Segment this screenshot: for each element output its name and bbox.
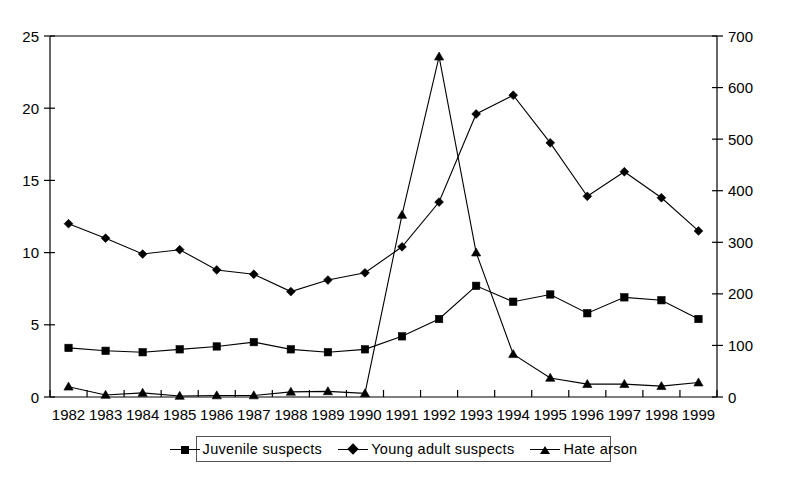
data-point-diamond (620, 167, 629, 176)
data-point-diamond (64, 219, 73, 228)
y-axis-left-tick-label: 25 (22, 28, 39, 45)
data-point-square (695, 315, 702, 322)
data-point-triangle (546, 373, 555, 381)
data-point-diamond (286, 287, 295, 296)
x-axis-tick-label: 1993 (459, 406, 492, 423)
y-axis-left-tick-label: 10 (22, 244, 39, 261)
data-point-diamond (138, 250, 147, 259)
data-point-triangle (694, 378, 703, 386)
legend-label-juvenile-suspects: Juvenile suspects (203, 441, 323, 457)
y-axis-right-tick-label: 300 (728, 234, 753, 251)
data-point-square (287, 346, 294, 353)
data-point-triangle (138, 388, 147, 396)
x-axis-tick-label: 1992 (422, 406, 455, 423)
y-axis-right-tick-label: 200 (728, 285, 753, 302)
data-point-diamond (249, 270, 258, 279)
y-axis-left-tick-label: 5 (31, 316, 39, 333)
legend-square-marker-icon (170, 443, 200, 455)
legend-item-juvenile-suspects[interactable]: Juvenile suspects (170, 441, 323, 457)
legend-item-young-adult-suspects[interactable]: Young adult suspects (338, 441, 514, 457)
x-axis-tick-label: 1994 (497, 406, 530, 423)
x-axis-tick-label: 1996 (571, 406, 604, 423)
data-point-square (472, 282, 479, 289)
y-axis-right-tick-label: 700 (728, 28, 753, 45)
series-line-hate-arson (69, 57, 699, 396)
data-point-diamond (472, 110, 481, 119)
data-point-square (102, 347, 109, 354)
data-point-diamond (361, 268, 370, 277)
data-point-square (621, 294, 628, 301)
y-axis-left-tick-label: 15 (22, 172, 39, 189)
legend-label-young-adult-suspects: Young adult suspects (371, 441, 514, 457)
data-point-diamond (324, 276, 333, 285)
y-axis-right-tick-label: 600 (728, 79, 753, 96)
data-point-square (584, 310, 591, 317)
x-axis-tick-label: 1985 (163, 406, 196, 423)
data-point-triangle (323, 387, 332, 395)
x-axis-tick-label: 1989 (311, 406, 344, 423)
data-point-square (324, 349, 331, 356)
data-point-square (509, 298, 516, 305)
data-point-square (547, 291, 554, 298)
data-point-square (435, 315, 442, 322)
data-point-triangle (212, 391, 221, 399)
data-point-triangle (509, 350, 518, 358)
data-point-square (65, 344, 72, 351)
x-axis-tick-label: 1991 (385, 406, 418, 423)
y-axis-right-tick-label: 0 (728, 389, 736, 406)
data-point-triangle (620, 380, 629, 388)
y-axis-right-tick-label: 100 (728, 337, 753, 354)
x-axis-tick-label: 1988 (274, 406, 307, 423)
data-point-triangle (434, 52, 443, 60)
data-point-square (361, 346, 368, 353)
chart-container: 0510152025010020030040050060070019821983… (0, 0, 807, 485)
data-point-square (213, 343, 220, 350)
data-point-square (658, 297, 665, 304)
y-axis-right-tick-label: 500 (728, 131, 753, 148)
chart-plot: 0510152025010020030040050060070019821983… (0, 0, 807, 485)
y-axis-right-tick-label: 400 (728, 182, 753, 199)
x-axis-tick-label: 1983 (89, 406, 122, 423)
data-point-diamond (583, 192, 592, 201)
legend-item-hate-arson[interactable]: Hate arson (530, 441, 637, 457)
x-axis-tick-label: 1986 (200, 406, 233, 423)
chart-legend: Juvenile suspects Young adult suspects H… (196, 436, 611, 462)
y-axis-left-tick-label: 0 (31, 389, 39, 406)
data-point-square (139, 349, 146, 356)
legend-label-hate-arson: Hate arson (563, 441, 637, 457)
x-axis-tick-label: 1984 (126, 406, 159, 423)
legend-triangle-marker-icon (530, 443, 560, 455)
data-point-triangle (472, 248, 481, 256)
x-axis-tick-label: 1987 (237, 406, 270, 423)
x-axis-tick-label: 1999 (682, 406, 715, 423)
data-point-triangle (286, 387, 295, 395)
x-axis-tick-label: 1982 (52, 406, 85, 423)
data-point-diamond (212, 266, 221, 275)
data-point-triangle (397, 210, 406, 218)
series-line-young-adult-suspects (69, 95, 699, 291)
x-axis-tick-label: 1995 (534, 406, 567, 423)
data-point-diamond (101, 234, 110, 243)
data-point-triangle (64, 382, 73, 390)
data-point-diamond (175, 245, 184, 254)
data-point-square (398, 333, 405, 340)
x-axis-tick-label: 1990 (348, 406, 381, 423)
series-line-juvenile-suspects (69, 286, 699, 352)
data-point-square (250, 338, 257, 345)
data-point-square (176, 346, 183, 353)
x-axis-tick-label: 1997 (608, 406, 641, 423)
y-axis-left-tick-label: 20 (22, 100, 39, 117)
x-axis-tick-label: 1998 (645, 406, 678, 423)
legend-diamond-marker-icon (338, 443, 368, 455)
